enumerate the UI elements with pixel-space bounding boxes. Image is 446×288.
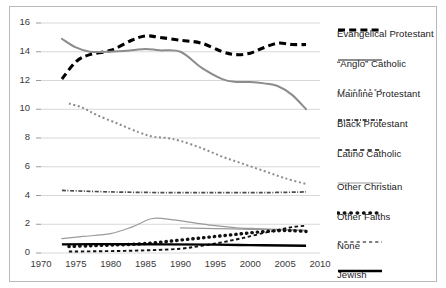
series-line-9 <box>62 244 306 246</box>
legend-item[interactable]: Mainline Protestant <box>337 78 441 106</box>
y-tick-label: 12 <box>8 74 30 85</box>
x-tick-label: 2005 <box>268 258 302 269</box>
y-tick-label: 0 <box>8 246 30 257</box>
chart-legend: Evangelical Protestant“Anglo” CatholicMa… <box>333 8 441 280</box>
legend-label: Evangelical Protestant <box>337 28 434 39</box>
legend-item[interactable]: Other Faiths <box>337 201 441 229</box>
legend-label: Other Faiths <box>337 211 390 222</box>
legend-marker-small-dashed-gray-marker <box>337 140 383 147</box>
legend-marker-dash-dot-marker <box>337 110 383 117</box>
legend-marker-bold-dotted-marker <box>337 203 383 210</box>
legend-item[interactable]: Jewish <box>337 259 441 287</box>
x-tick-label: 1980 <box>94 258 128 269</box>
legend-label: Latino Catholic <box>337 148 401 159</box>
y-tick-label: 8 <box>8 131 30 142</box>
legend-marker-fine-dashed-marker <box>337 232 383 239</box>
legend-item[interactable]: None <box>337 230 441 258</box>
x-tick-label: 2000 <box>233 258 267 269</box>
legend-item[interactable]: Other Christian <box>337 171 441 199</box>
chart-figure: 0246810121416 19701975198019851990199520… <box>0 0 446 288</box>
legend-item[interactable]: Evangelical Protestant <box>337 18 441 46</box>
x-tick-label: 1995 <box>198 258 232 269</box>
series-line-1 <box>62 36 306 79</box>
y-tick-label: 16 <box>8 16 30 27</box>
series-line-4 <box>62 190 306 192</box>
gridlines-group <box>41 23 320 253</box>
x-tick-label: 1975 <box>59 258 93 269</box>
legend-label: Mainline Protestant <box>337 88 420 99</box>
y-tick-label: 2 <box>8 217 30 228</box>
y-tick-marks <box>36 23 41 253</box>
legend-label: Black Protestant <box>337 118 408 129</box>
legend-label: None <box>337 240 360 251</box>
y-tick-label: 4 <box>8 189 30 200</box>
series-group <box>62 36 306 252</box>
series-line-3 <box>69 104 306 185</box>
x-tick-label: 2010 <box>303 258 337 269</box>
legend-item[interactable]: Latino Catholic <box>337 138 441 166</box>
legend-label: Other Christian <box>337 181 402 192</box>
x-tick-label: 1985 <box>129 258 163 269</box>
y-tick-label: 10 <box>8 102 30 113</box>
y-tick-label: 6 <box>8 160 30 171</box>
legend-marker-thick-solid-marker <box>337 261 383 268</box>
legend-marker-thick-dashed-marker <box>337 20 383 27</box>
legend-marker-thin-line-gray-marker <box>337 173 383 180</box>
y-tick-label: 14 <box>8 45 30 56</box>
x-tick-label: 1970 <box>24 258 58 269</box>
legend-label: Jewish <box>337 269 367 280</box>
legend-item[interactable]: “Anglo” Catholic <box>337 48 441 76</box>
series-line-2 <box>62 39 306 109</box>
legend-marker-solid-gray-marker <box>337 50 383 57</box>
legend-label: “Anglo” Catholic <box>337 58 406 69</box>
legend-marker-fine-dotted-marker <box>337 80 383 87</box>
x-tick-label: 1990 <box>164 258 198 269</box>
legend-item[interactable]: Black Protestant <box>337 108 441 136</box>
chart-canvas <box>0 0 330 288</box>
plot-area: 0246810121416 19701975198019851990199520… <box>0 0 330 288</box>
